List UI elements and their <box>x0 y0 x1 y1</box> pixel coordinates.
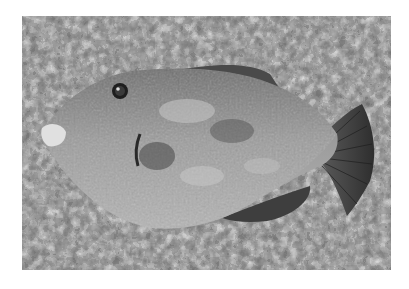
fish-photo <box>22 16 391 270</box>
